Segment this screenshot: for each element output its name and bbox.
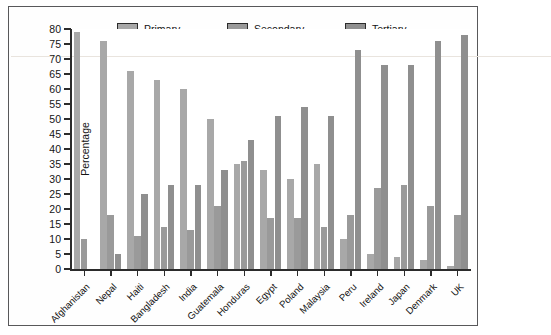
y-axis-tick-label: 60	[49, 83, 61, 95]
bar-tertiary-bangladesh	[168, 185, 175, 269]
bar-primary-uk	[447, 266, 454, 269]
y-axis-tick-label: 35	[49, 158, 61, 170]
bar-secondary-uk	[454, 215, 461, 269]
bar-secondary-poland	[294, 218, 301, 269]
bar-tertiary-malaysia	[328, 116, 335, 269]
bar-primary-poland	[287, 179, 294, 269]
y-axis-title: Percentage	[79, 122, 91, 176]
x-axis-tick	[164, 269, 165, 276]
y-axis-tick	[64, 268, 71, 269]
y-axis-tick	[64, 238, 71, 239]
bar-secondary-egypt	[267, 218, 274, 269]
y-axis-tick	[64, 163, 71, 164]
bar-secondary-malaysia	[321, 227, 328, 269]
y-axis-tick-label: 25	[49, 188, 61, 200]
bar-secondary-bangladesh	[161, 227, 168, 269]
y-axis-tick-label: 80	[49, 23, 61, 35]
plot-area: Percentage 05101520253035404550556065707…	[71, 29, 471, 269]
bar-primary-haiti	[127, 71, 134, 269]
bar-secondary-peru	[347, 215, 354, 269]
bar-primary-malaysia	[314, 164, 321, 269]
x-axis-tick	[377, 269, 378, 276]
x-axis-tick	[430, 269, 431, 276]
x-axis-tick	[270, 269, 271, 276]
y-axis-tick-label: 0	[55, 263, 61, 275]
y-axis-tick-label: 45	[49, 128, 61, 140]
bar-tertiary-peru	[355, 50, 362, 269]
y-axis-tick-label: 5	[55, 248, 61, 260]
bar-primary-bangladesh	[154, 80, 161, 269]
bar-tertiary-egypt	[275, 116, 282, 269]
bar-secondary-denmark	[427, 206, 434, 269]
bar-tertiary-ireland	[381, 65, 388, 269]
y-axis-tick	[64, 148, 71, 149]
bar-secondary-india	[187, 230, 194, 269]
y-axis-tick	[64, 43, 71, 44]
y-axis-tick	[64, 208, 71, 209]
x-axis-tick	[217, 269, 218, 276]
y-axis-tick	[64, 253, 71, 254]
bar-tertiary-denmark	[435, 41, 442, 269]
x-axis-tick	[84, 269, 85, 276]
bar-tertiary-guatemala	[221, 170, 228, 269]
bar-primary-egypt	[260, 170, 267, 269]
y-axis-tick-label: 20	[49, 203, 61, 215]
bar-secondary-honduras	[241, 161, 248, 269]
bar-primary-ireland	[367, 254, 374, 269]
bar-primary-denmark	[420, 260, 427, 269]
y-axis-tick-label: 40	[49, 143, 61, 155]
bar-primary-honduras	[234, 164, 241, 269]
bar-secondary-afghanistan	[81, 239, 88, 269]
y-axis-tick	[64, 103, 71, 104]
bar-tertiary-india	[195, 185, 202, 269]
x-axis-tick	[324, 269, 325, 276]
y-axis-tick-label: 15	[49, 218, 61, 230]
bar-primary-guatemala	[207, 119, 214, 269]
x-axis-tick	[110, 269, 111, 276]
bar-secondary-nepal	[107, 215, 114, 269]
bar-primary-peru	[340, 239, 347, 269]
y-axis-tick-label: 10	[49, 233, 61, 245]
bar-secondary-japan	[401, 185, 408, 269]
bar-secondary-haiti	[134, 236, 141, 269]
x-axis-tick	[404, 269, 405, 276]
x-axis-tick	[350, 269, 351, 276]
bar-tertiary-haiti	[141, 194, 148, 269]
y-axis-tick	[64, 118, 71, 119]
y-axis-tick	[64, 28, 71, 29]
y-axis-tick	[64, 178, 71, 179]
bar-tertiary-japan	[408, 65, 415, 269]
x-axis-tick	[137, 269, 138, 276]
bar-primary-nepal	[100, 41, 107, 269]
bar-primary-india	[180, 89, 187, 269]
x-axis-tick	[190, 269, 191, 276]
y-axis-tick-label: 75	[49, 38, 61, 50]
y-axis-tick	[64, 58, 71, 59]
y-axis-tick-label: 30	[49, 173, 61, 185]
y-axis-tick-label: 70	[49, 53, 61, 65]
y-axis-tick-label: 50	[49, 113, 61, 125]
bar-tertiary-nepal	[115, 254, 122, 269]
y-axis-tick	[64, 73, 71, 74]
x-axis-tick	[297, 269, 298, 276]
y-axis-tick-label: 55	[49, 98, 61, 110]
y-axis-tick	[64, 193, 71, 194]
bar-primary-japan	[394, 257, 401, 269]
y-axis-tick	[64, 133, 71, 134]
bar-secondary-ireland	[374, 188, 381, 269]
y-axis-tick	[64, 88, 71, 89]
chart-frame: PrimarySecondaryTertiary Percentage 0510…	[8, 6, 478, 326]
bar-tertiary-poland	[301, 107, 308, 269]
faint-gridline	[11, 56, 551, 57]
x-axis-tick	[244, 269, 245, 276]
bar-tertiary-honduras	[248, 140, 255, 269]
bar-secondary-guatemala	[214, 206, 221, 269]
bar-tertiary-uk	[461, 35, 468, 269]
y-axis-tick	[64, 223, 71, 224]
x-axis-tick	[457, 269, 458, 276]
y-axis-tick-label: 65	[49, 68, 61, 80]
bar-primary-afghanistan	[74, 32, 81, 269]
